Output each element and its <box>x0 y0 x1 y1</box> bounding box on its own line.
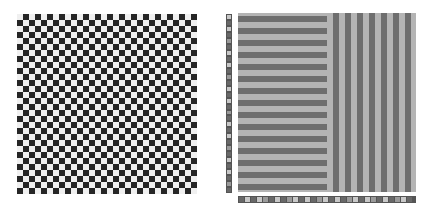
strip-cell <box>226 187 232 193</box>
vertical-stripe <box>345 13 351 192</box>
horizontal-stripe <box>238 40 327 46</box>
checkerboard-pattern <box>17 14 197 194</box>
vertical-stripe <box>393 13 399 192</box>
checker-cell <box>191 188 197 194</box>
vertical-stripe <box>369 13 375 192</box>
horizontal-stripe <box>238 148 327 154</box>
horizontal-stripe <box>238 28 327 34</box>
horizontal-stripe <box>238 160 327 166</box>
vertical-stripe <box>381 13 387 192</box>
vertical-stripe <box>357 13 363 192</box>
horizontal-stripes <box>238 13 328 192</box>
horizontal-stripe <box>238 88 327 94</box>
horizontal-stripe <box>238 124 327 130</box>
horizontal-indicator-strip <box>238 196 416 203</box>
horizontal-stripe <box>238 136 327 142</box>
horizontal-stripe <box>238 76 327 82</box>
horizontal-stripe <box>238 112 327 118</box>
horizontal-stripe <box>238 64 327 70</box>
vertical-stripes <box>328 13 416 192</box>
vertical-stripe <box>405 13 411 192</box>
horizontal-stripe <box>238 100 327 106</box>
horizontal-stripe <box>238 172 327 178</box>
horizontal-stripe <box>238 52 327 58</box>
horizontal-stripe <box>238 16 327 22</box>
stripe-pattern-panel <box>238 13 416 192</box>
horizontal-stripe <box>238 184 327 190</box>
strip-cell <box>407 197 413 202</box>
vertical-indicator-strip <box>226 14 232 193</box>
vertical-stripe <box>333 13 339 192</box>
